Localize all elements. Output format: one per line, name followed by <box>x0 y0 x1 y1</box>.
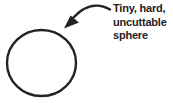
sphere-diagram: Tiny, hard, uncuttable sphere <box>0 0 173 103</box>
arrow-shaft <box>74 6 111 18</box>
sphere-label: Tiny, hard, uncuttable sphere <box>113 2 171 43</box>
label-line-2: uncuttable <box>113 16 171 30</box>
label-line-3: sphere <box>113 29 171 43</box>
pointer-arrow-icon <box>64 6 110 29</box>
arrow-head <box>64 16 79 29</box>
sphere-circle-icon <box>7 30 76 96</box>
label-line-1: Tiny, hard, <box>113 2 171 16</box>
